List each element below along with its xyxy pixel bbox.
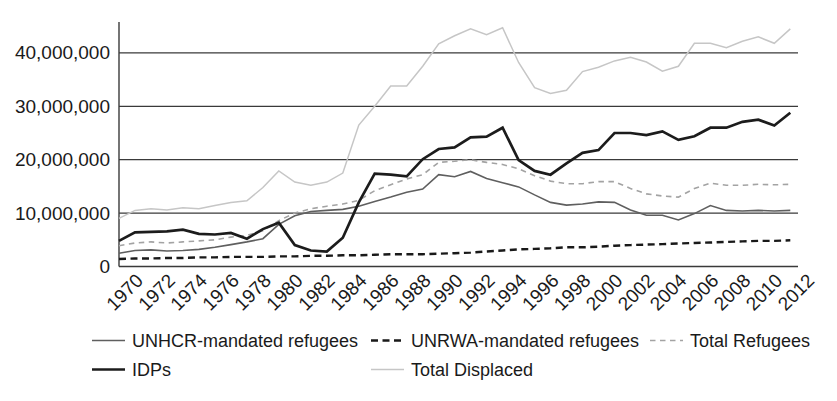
legend-label: Total Refugees	[690, 331, 810, 351]
series-line-total_displaced	[119, 28, 790, 219]
y-axis-tick-label: 20,000,000	[15, 149, 110, 170]
y-axis-tick-label: 40,000,000	[15, 42, 110, 63]
x-axis-tick-label: 1988	[390, 270, 435, 315]
legend-label: IDPs	[132, 360, 171, 380]
x-axis-tick-label: 1980	[262, 270, 307, 315]
legend-label: UNHCR-mandated refugees	[132, 331, 358, 351]
x-axis-tick-label: 2006	[678, 270, 723, 315]
series-line-unhcr	[119, 171, 790, 253]
legend-item-total_refugees: Total Refugees	[650, 331, 810, 351]
series-line-idps	[119, 113, 790, 252]
x-axis-tick-label: 2010	[742, 270, 787, 315]
displacement-trends-line-chart: 010,000,00020,000,00030,000,00040,000,00…	[0, 0, 837, 401]
x-axis-tick-label: 1992	[454, 270, 499, 315]
legend-label: Total Displaced	[411, 360, 533, 380]
x-axis-tick-label: 1976	[198, 270, 243, 315]
y-axis-tick-label: 30,000,000	[15, 96, 110, 117]
legend-item-idps: IDPs	[92, 360, 171, 380]
y-axis-tick-label: 0	[99, 256, 110, 277]
legend-label: UNRWA-mandated refugees	[411, 331, 639, 351]
legend-item-unhcr: UNHCR-mandated refugees	[92, 331, 358, 351]
x-axis-tick-label: 2000	[582, 270, 627, 315]
y-axis-tick-label: 10,000,000	[15, 203, 110, 224]
legend-item-unrwa: UNRWA-mandated refugees	[371, 331, 639, 351]
series-line-unrwa	[119, 240, 790, 259]
legend-item-total_displaced: Total Displaced	[371, 360, 533, 380]
x-axis-tick-label: 2012	[774, 270, 819, 315]
global-displacement-trends-figure: 010,000,00020,000,00030,000,00040,000,00…	[0, 0, 837, 401]
x-axis-tick-label: 1986	[358, 270, 403, 315]
x-axis-tick-label: 1998	[550, 270, 595, 315]
x-axis-tick-label: 1982	[294, 270, 339, 315]
